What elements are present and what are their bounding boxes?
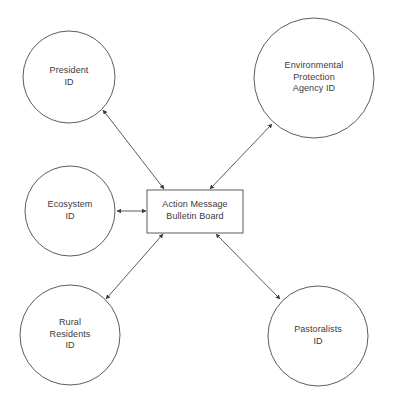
diagram-canvas: President ID Environmental Protection Ag… xyxy=(0,0,396,398)
node-environmental-protection-agency-id[interactable] xyxy=(254,18,374,138)
node-pastoralists-id[interactable] xyxy=(268,286,368,386)
node-president-id[interactable] xyxy=(23,31,115,123)
node-action-message-bulletin-board[interactable] xyxy=(147,190,243,233)
connector-president-to-board xyxy=(103,110,164,189)
node-rural-residents-id[interactable] xyxy=(20,285,120,385)
connector-rural-residents-to-board xyxy=(106,234,163,299)
connector-epa-to-board xyxy=(210,124,272,189)
node-ecosystem-id[interactable] xyxy=(25,166,115,256)
connector-pastoralists-to-board xyxy=(216,234,280,299)
